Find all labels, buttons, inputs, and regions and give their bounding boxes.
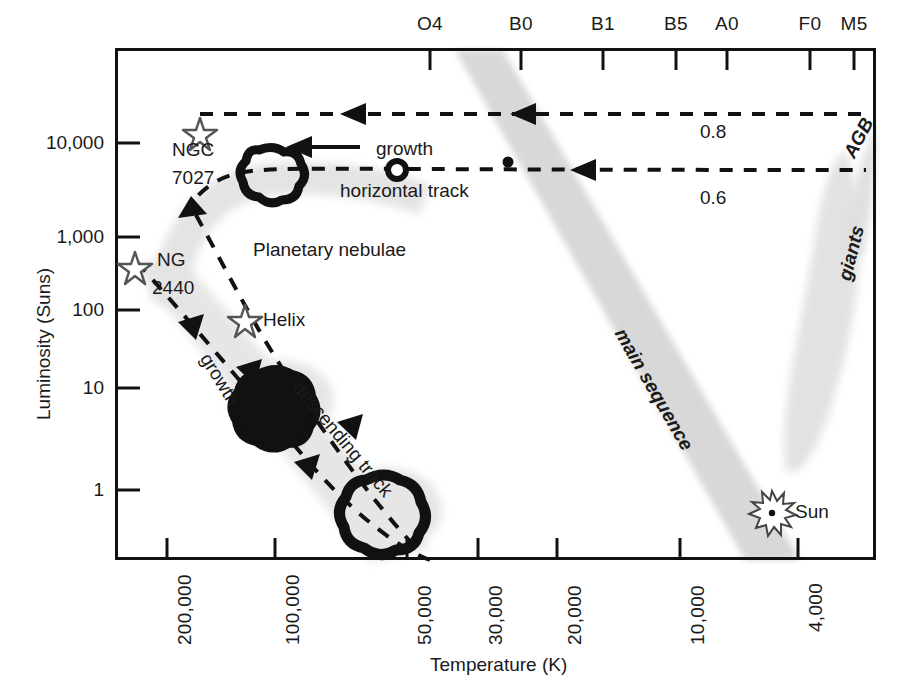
mass-label-0-6: 0.6 <box>700 188 726 207</box>
top-tick-label-b0: B0 <box>509 14 533 33</box>
mass-label-0-8: 0.8 <box>700 122 726 141</box>
bottom-tick-label-10000: 10,000 <box>688 585 707 645</box>
bottom-tick-label-200000: 200,000 <box>175 574 194 645</box>
top-tick-label-b1: B1 <box>591 14 615 33</box>
bottom-tick-label-100000: 100,000 <box>283 574 302 645</box>
plot-frame <box>115 48 876 560</box>
top-tick-label-m5: M5 <box>841 14 868 33</box>
top-tick-label-b5: B5 <box>664 14 688 33</box>
left-tick-label-1: 1 <box>0 480 104 499</box>
object-label-ngc2440-line2: 2440 <box>152 278 194 297</box>
object-label-ngc7027-line1: NGC <box>172 140 214 159</box>
track-label-horizontal-track: horizontal track <box>340 181 469 200</box>
bottom-tick-label-50000: 50,000 <box>415 585 434 645</box>
top-tick-label-o4: O4 <box>417 14 443 33</box>
top-tick-label-f0: F0 <box>799 14 822 33</box>
bottom-tick-label-20000: 20,000 <box>565 585 584 645</box>
region-label-planetary-nebulae: Planetary nebulae <box>253 240 406 259</box>
object-label-ngc2440-line1: NG <box>157 250 186 269</box>
bottom-tick-label-4000: 4,000 <box>806 583 825 632</box>
bottom-tick-label-30000: 30,000 <box>486 585 505 645</box>
x-axis-title: Temperature (K) <box>430 655 567 674</box>
top-tick-label-a0: A0 <box>715 14 739 33</box>
hr-diagram-figure: O4 B0 B1 B5 A0 F0 M5 200,000 100,000 50,… <box>0 0 903 687</box>
object-label-sun: Sun <box>795 502 829 521</box>
object-label-helix: Helix <box>263 310 305 329</box>
left-tick-label-10000: 10,000 <box>0 133 104 152</box>
arrow-label-growth-upper: growth <box>376 139 433 158</box>
y-axis-title: Luminosity (Suns) <box>34 268 53 420</box>
left-tick-label-1000: 1,000 <box>0 227 104 246</box>
object-label-ngc7027-line2: 7027 <box>172 168 214 187</box>
